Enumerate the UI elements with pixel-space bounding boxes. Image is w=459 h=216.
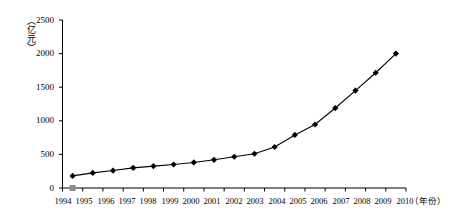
data-point-markers <box>70 51 399 180</box>
data-point-2003 <box>251 151 257 157</box>
data-point-1997 <box>130 165 136 171</box>
chart-figure: （亿元） 2500 2000 1500 1000 500 0 1994 1995… <box>0 0 459 216</box>
data-point-1999 <box>171 161 177 167</box>
data-point-2001 <box>211 157 217 163</box>
x-axis-ticks <box>63 188 407 192</box>
data-point-1996 <box>110 167 116 173</box>
axis-lines <box>63 20 407 188</box>
y-axis-ticks <box>59 20 63 188</box>
plot-area <box>0 0 459 216</box>
data-point-1998 <box>150 163 156 169</box>
data-point-2000 <box>191 159 197 165</box>
origin-square-marker <box>70 185 76 191</box>
data-point-1994 <box>70 173 76 179</box>
data-point-2002 <box>231 154 237 160</box>
data-point-1995 <box>90 170 96 176</box>
data-point-2004 <box>272 144 278 150</box>
data-point-2005 <box>292 132 298 138</box>
